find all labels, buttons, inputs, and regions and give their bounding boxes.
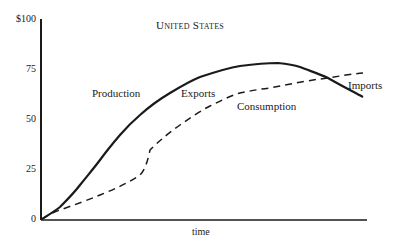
y-tick-75: 75 — [6, 63, 36, 74]
exports-label: Exports — [181, 87, 215, 99]
chart-title: United States — [156, 19, 224, 31]
imports-label: Imports — [348, 79, 382, 91]
y-tick-0: 0 — [6, 213, 36, 224]
x-axis-label: time — [192, 226, 210, 237]
y-tick-25: 25 — [6, 163, 36, 174]
chart-canvas — [0, 0, 400, 250]
y-tick-50: 50 — [6, 113, 36, 124]
production-label: Production — [92, 87, 140, 99]
consumption-label: Consumption — [237, 100, 296, 112]
y-tick-100: $100 — [6, 13, 36, 24]
